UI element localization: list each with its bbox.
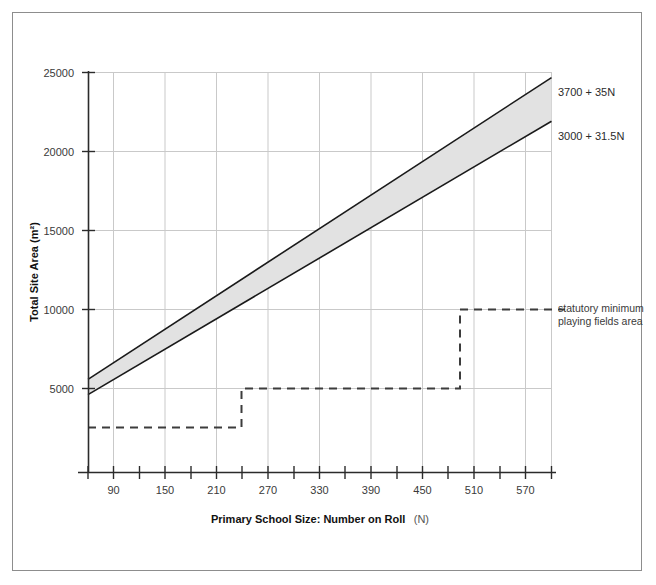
y-tick-label-10000: 10000 — [43, 304, 74, 316]
statutory-minimum-step-line — [88, 310, 565, 428]
y-axis-title: Total Site Area (m²) — [28, 222, 40, 322]
series-label-lower: 3000 + 31.5N — [558, 130, 624, 142]
statutory-minimum-label-line2: playing fields area — [558, 315, 643, 327]
x-tick-label-90: 90 — [107, 484, 119, 496]
x-tick-label-210: 210 — [207, 484, 225, 496]
x-axis-title: Primary School Size: Number on Roll (N) — [211, 509, 429, 526]
series-label-upper: 3700 + 35N — [558, 86, 615, 98]
x-axis-tick-labels: 90 150 210 270 330 390 450 510 570 — [107, 484, 534, 496]
y-tick-label-15000: 15000 — [43, 225, 74, 237]
x-tick-label-150: 150 — [156, 484, 174, 496]
y-tick-label-5000: 5000 — [50, 383, 74, 395]
y-tick-label-25000: 25000 — [43, 67, 74, 79]
y-tick-label-20000: 20000 — [43, 146, 74, 158]
y-axis-tick-labels: 25000 20000 15000 10000 5000 — [43, 67, 74, 395]
chart-plot: 25000 20000 15000 10000 5000 90 150 210 … — [0, 0, 656, 585]
x-axis-title-suffix: (N) — [414, 513, 429, 525]
statutory-minimum-label-line1: statutory minimum — [558, 302, 644, 314]
x-tick-label-510: 510 — [465, 484, 483, 496]
x-tick-label-330: 330 — [310, 484, 328, 496]
figure-container: 25000 20000 15000 10000 5000 90 150 210 … — [0, 0, 656, 585]
x-tick-label-570: 570 — [516, 484, 534, 496]
x-axis-title-main: Primary School Size: Number on Roll — [211, 513, 405, 525]
x-tick-label-450: 450 — [413, 484, 431, 496]
x-tick-label-270: 270 — [259, 484, 277, 496]
x-tick-label-390: 390 — [362, 484, 380, 496]
